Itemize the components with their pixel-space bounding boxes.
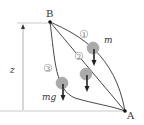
point-b-label: B bbox=[46, 8, 53, 19]
path-1-label: 1 bbox=[82, 31, 86, 39]
point-a-label: A bbox=[126, 110, 135, 121]
path-2-label: 2 bbox=[77, 53, 81, 61]
arrowhead-3-icon bbox=[61, 95, 66, 101]
ball-path-2 bbox=[80, 68, 92, 80]
point-b-dot bbox=[48, 20, 52, 24]
dimension-arrowhead-icon bbox=[21, 24, 25, 29]
mass-label: m bbox=[104, 35, 113, 45]
ball-path-1 bbox=[87, 42, 99, 54]
arrowhead-1-icon bbox=[92, 60, 97, 66]
ball-path-3 bbox=[56, 77, 68, 89]
path-3-label: 3 bbox=[46, 65, 50, 73]
weight-label: mg bbox=[42, 92, 57, 102]
slope-paths-diagram: 1 2 3 B A m mg z bbox=[0, 0, 144, 125]
arrowhead-2-icon bbox=[85, 86, 90, 92]
height-label: z bbox=[9, 65, 15, 75]
